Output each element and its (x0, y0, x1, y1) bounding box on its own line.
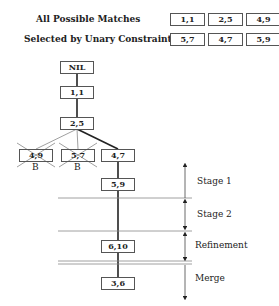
match-box: 4,9 (246, 13, 279, 26)
stage-label: Stage 2 (197, 209, 232, 219)
branch-mark: B (32, 162, 39, 172)
node-merge: 3,6 (101, 277, 135, 290)
node-refinement: 6,10 (101, 240, 135, 253)
node-selected: 4,7 (101, 149, 135, 162)
unary-box: 5,9 (246, 33, 279, 46)
node-level1: 1,1 (60, 86, 94, 99)
match-box: 1,1 (170, 13, 205, 26)
node-root: NIL (60, 61, 94, 74)
branch-mark: B (74, 162, 81, 172)
match-box: 2,5 (208, 13, 243, 26)
node-level2: 2,5 (60, 117, 94, 130)
stage-label: Stage 1 (197, 176, 232, 186)
unary-box: 4,7 (208, 33, 243, 46)
node-stage1: 5,9 (101, 178, 135, 191)
unary-box: 5,7 (170, 33, 205, 46)
node-pruned: 5,7 (61, 149, 95, 162)
node-pruned: 4,9 (19, 149, 53, 162)
unary-constraints-label: Selected by Unary Constraints: (24, 34, 180, 44)
stage-label: Refinement (195, 240, 248, 250)
all-matches-label: All Possible Matches (36, 14, 140, 24)
stage-label: Merge (195, 273, 225, 283)
